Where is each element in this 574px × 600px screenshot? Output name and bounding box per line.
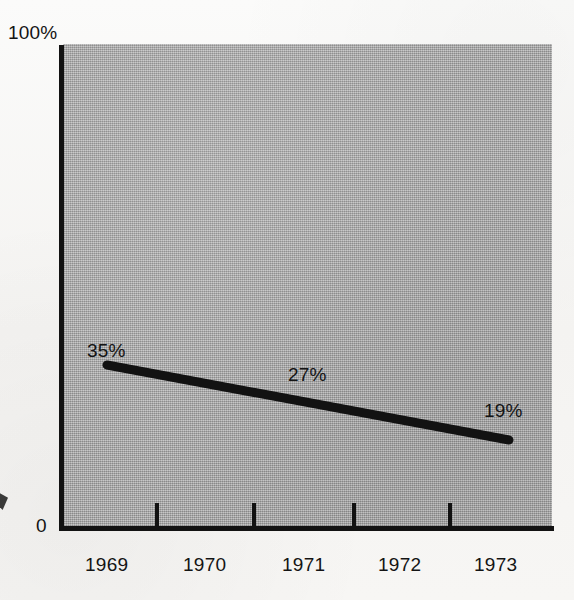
y-axis-line bbox=[59, 45, 64, 531]
x-axis-label-1969: 1969 bbox=[85, 554, 128, 576]
y-axis-bottom-label: 0 bbox=[36, 515, 47, 537]
x-axis-line bbox=[59, 526, 554, 531]
x-axis-tick-3 bbox=[448, 503, 452, 528]
data-point-label-1971: 27% bbox=[288, 364, 327, 386]
x-axis-label-1971: 1971 bbox=[282, 554, 325, 576]
chart-screenshot: 100% 0 19691970197119721973 35% 27% 19% bbox=[0, 0, 574, 600]
cropped-margin-glyph bbox=[0, 491, 8, 510]
data-point-label-1973: 19% bbox=[484, 400, 523, 422]
data-point-label-1969: 35% bbox=[87, 340, 126, 362]
x-axis-label-1970: 1970 bbox=[183, 554, 226, 576]
x-axis-tick-2 bbox=[352, 503, 356, 528]
y-axis-top-label: 100% bbox=[8, 22, 57, 44]
x-axis-tick-0 bbox=[155, 503, 159, 528]
x-axis-label-1973: 1973 bbox=[474, 554, 517, 576]
x-axis-tick-1 bbox=[252, 503, 256, 528]
plot-area bbox=[63, 44, 552, 529]
plot-area-sheen bbox=[63, 44, 552, 529]
x-axis-label-1972: 1972 bbox=[378, 554, 421, 576]
